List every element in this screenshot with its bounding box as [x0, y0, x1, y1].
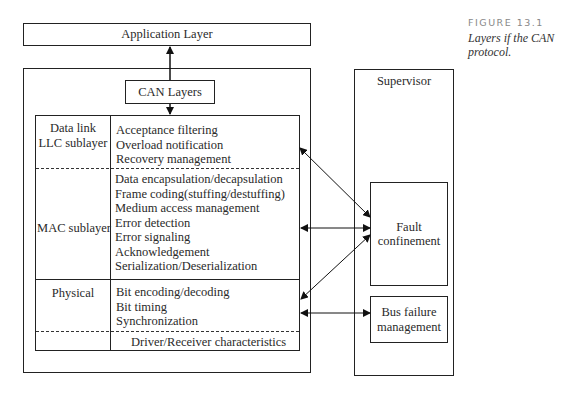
connector-arrows [0, 0, 561, 396]
physical-fault-arrow [301, 235, 370, 299]
llc-fault-arrow [300, 148, 370, 217]
